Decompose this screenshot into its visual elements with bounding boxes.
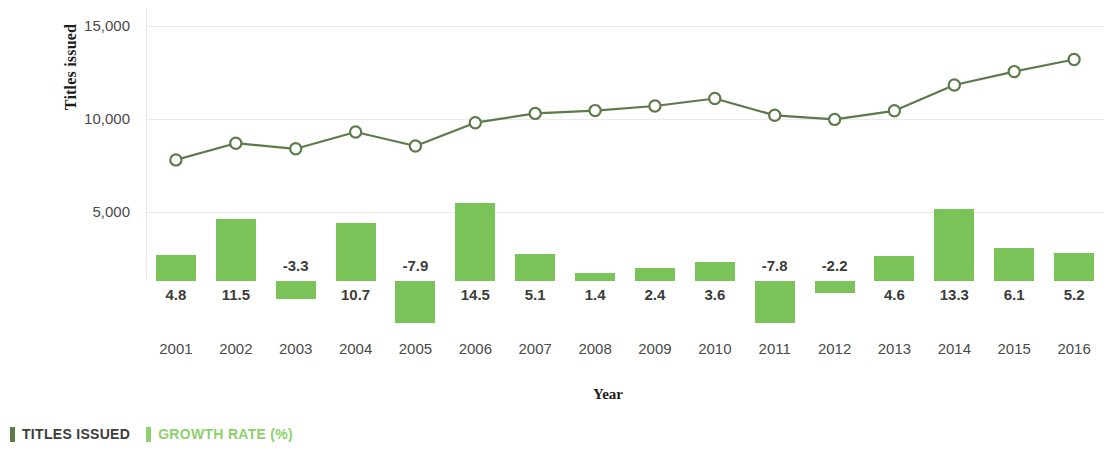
bar-value-label: 5.2: [1044, 286, 1104, 303]
bar: [156, 255, 196, 281]
y-axis-tick-label: 5,000: [38, 203, 130, 220]
bar: [635, 268, 675, 281]
legend-item-growth-rate: GROWTH RATE (%): [146, 426, 293, 442]
line-data-point-marker: [709, 93, 720, 104]
legend-label-titles-issued: TITLES ISSUED: [22, 426, 130, 442]
bar-value-label: 4.8: [146, 286, 206, 303]
bar: [994, 248, 1034, 281]
bar: [336, 223, 376, 281]
line-data-point-marker: [350, 126, 361, 137]
bar: [934, 209, 974, 281]
y-axis-tick-label: 15,000: [38, 17, 130, 34]
x-axis-tick-label: 2004: [326, 340, 386, 357]
bar: [455, 203, 495, 281]
line-data-point-marker: [590, 105, 601, 116]
x-axis-tick-label: 2001: [146, 340, 206, 357]
x-axis-tick-label: 2003: [266, 340, 326, 357]
bar-value-label: -3.3: [266, 257, 326, 274]
line-data-point-marker: [290, 143, 301, 154]
x-axis-title: Year: [0, 386, 1116, 403]
y-axis-tick-label: 10,000: [38, 110, 130, 127]
x-axis-tick-label: 2009: [625, 340, 685, 357]
bar-value-label: 3.6: [685, 286, 745, 303]
line-data-point-marker: [470, 117, 481, 128]
line-data-point-marker: [889, 105, 900, 116]
line-data-point-marker: [1069, 54, 1080, 65]
line-data-point-marker: [649, 100, 660, 111]
bar-value-label: 14.5: [445, 286, 505, 303]
bar: [815, 281, 855, 293]
x-axis-tick-label: 2012: [805, 340, 865, 357]
bar-value-label: -7.8: [745, 257, 805, 274]
legend-swatch-icon-growth-rate: [146, 427, 151, 442]
line-data-point-marker: [829, 114, 840, 125]
line-data-point-marker: [530, 108, 541, 119]
bar-value-label: 6.1: [984, 286, 1044, 303]
bar-value-label: 4.6: [865, 286, 925, 303]
chart-legend: TITLES ISSUED GROWTH RATE (%): [10, 426, 293, 442]
bar-value-label: 5.1: [505, 286, 565, 303]
x-axis-tick-label: 2014: [924, 340, 984, 357]
combo-chart: Titles issued 5,00010,00015,000 4.811.5-…: [0, 0, 1116, 453]
bar-value-label: 1.4: [565, 286, 625, 303]
plot-area: 4.811.5-3.310.7-7.914.55.11.42.43.6-7.8-…: [146, 0, 1104, 330]
bar: [874, 256, 914, 281]
bar: [515, 254, 555, 281]
legend-item-titles-issued: TITLES ISSUED: [10, 426, 130, 442]
bar: [755, 281, 795, 323]
bar: [695, 262, 735, 281]
line-data-point-marker: [170, 154, 181, 165]
bar-value-label: -2.2: [805, 257, 865, 274]
line-data-point-marker: [230, 138, 241, 149]
legend-swatch-icon-titles-issued: [10, 427, 15, 442]
bar: [395, 281, 435, 323]
x-axis-tick-label: 2015: [984, 340, 1044, 357]
x-axis-tick-label: 2006: [445, 340, 505, 357]
bar-value-label: 11.5: [206, 286, 266, 303]
line-data-point-marker: [769, 110, 780, 121]
x-axis-tick-label: 2008: [565, 340, 625, 357]
legend-label-growth-rate: GROWTH RATE (%): [158, 426, 293, 442]
bar-value-label: 13.3: [924, 286, 984, 303]
bar-value-label: 2.4: [625, 286, 685, 303]
x-axis-tick-label: 2002: [206, 340, 266, 357]
line-data-point-marker: [1009, 66, 1020, 77]
bar: [216, 219, 256, 281]
line-data-point-marker: [949, 79, 960, 90]
x-axis-tick-label: 2010: [685, 340, 745, 357]
x-axis-tick-label: 2005: [386, 340, 446, 357]
bar: [575, 273, 615, 281]
bar: [276, 281, 316, 299]
x-axis-tick-label: 2011: [745, 340, 805, 357]
x-axis-tick-label: 2016: [1044, 340, 1104, 357]
bar: [1054, 253, 1094, 281]
x-axis-tick-label: 2007: [505, 340, 565, 357]
x-axis-tick-label: 2013: [865, 340, 925, 357]
bar-value-label: 10.7: [326, 286, 386, 303]
bar-value-label: -7.9: [386, 257, 446, 274]
line-data-point-marker: [410, 140, 421, 151]
